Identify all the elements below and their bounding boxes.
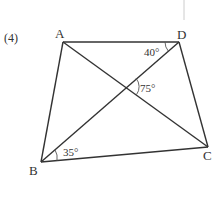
diagonal-bd xyxy=(41,42,179,162)
angle-label-adb: 40° xyxy=(144,46,159,58)
diagonal-ac xyxy=(63,42,208,147)
quadrilateral-diagram: (4) A D B C 40° 75° 35° xyxy=(0,0,222,216)
angle-arc-dbc xyxy=(55,150,57,161)
segment-dc xyxy=(179,42,208,147)
angle-label-doc: 75° xyxy=(140,82,155,94)
problem-number: (4) xyxy=(4,31,18,45)
point-label-a: A xyxy=(55,26,65,41)
point-label-d: D xyxy=(177,27,186,42)
point-label-c: C xyxy=(203,148,212,163)
angle-label-dbc: 35° xyxy=(63,146,78,158)
segment-ab xyxy=(41,42,63,162)
point-label-b: B xyxy=(29,163,38,178)
angle-arc-doc xyxy=(136,78,139,94)
angle-arc-adb xyxy=(165,42,168,51)
